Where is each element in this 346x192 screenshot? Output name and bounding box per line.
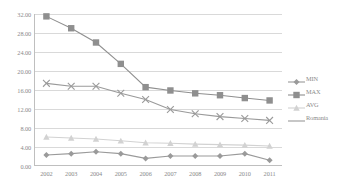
data-point-marker (43, 13, 49, 19)
data-point-marker (266, 97, 272, 103)
data-point-marker (217, 153, 223, 159)
x-tick-label: 2005 (115, 170, 127, 177)
y-tick-label: 4.00 (20, 144, 31, 151)
x-tick-label: 2003 (65, 170, 77, 177)
data-point-marker (118, 61, 124, 67)
legend-item-avg[interactable]: AVG (288, 98, 346, 110)
data-point-marker (118, 151, 124, 157)
y-axis-tick-labels: 0.004.008.0012.0016.0020.0024.0028.0032.… (0, 14, 31, 166)
chart-container: 0.004.008.0012.0016.0020.0024.0028.0032.… (0, 0, 346, 192)
legend-item-romania[interactable]: Romania (288, 111, 346, 123)
legend-item-max[interactable]: MAX (288, 85, 346, 97)
data-point-marker (68, 25, 74, 31)
series-min (43, 149, 272, 164)
x-tick-label: 2010 (239, 170, 251, 177)
data-point-marker (142, 84, 148, 90)
x-tick-label: 2004 (90, 170, 102, 177)
x-tick-label: 2002 (40, 170, 52, 177)
data-point-marker (43, 152, 49, 158)
data-point-marker (68, 151, 74, 157)
x-tick-label: 2011 (264, 170, 276, 177)
y-tick-label: 20.00 (17, 68, 31, 75)
y-tick-label: 16.00 (17, 87, 31, 94)
y-tick-label: 28.00 (17, 30, 31, 37)
series-layer (34, 14, 282, 166)
legend-marker-diamond-icon (288, 73, 305, 83)
data-point-marker (242, 95, 248, 101)
y-tick-label: 12.00 (17, 106, 31, 113)
series-max (43, 13, 273, 103)
plot-area (34, 14, 282, 166)
legend-label: MAX (306, 88, 320, 95)
data-point-marker (192, 90, 198, 96)
data-point-marker (117, 90, 124, 97)
series-romania (43, 80, 273, 124)
legend-label: MIN (306, 75, 318, 82)
legend-marker-triangle-icon (288, 99, 305, 109)
series-avg (43, 134, 273, 149)
legend-marker-square-icon (288, 86, 305, 96)
y-tick-label: 8.00 (20, 125, 31, 132)
x-axis-tick-labels: 2002200320042005200620072008200920102011 (34, 170, 282, 184)
data-point-marker (93, 39, 99, 45)
data-point-marker (242, 151, 248, 157)
x-tick-label: 2008 (189, 170, 201, 177)
data-point-marker (267, 157, 273, 163)
data-point-marker (167, 87, 173, 93)
legend-marker-x-icon (288, 112, 305, 122)
legend-item-min[interactable]: MIN (288, 72, 346, 84)
data-point-marker (192, 153, 198, 159)
series-line (46, 152, 269, 161)
legend-label: Romania (306, 114, 328, 121)
y-tick-label: 24.00 (17, 49, 31, 56)
y-tick-label: 0.00 (20, 163, 31, 170)
data-point-marker (142, 96, 149, 103)
data-point-marker (167, 153, 173, 159)
x-tick-label: 2009 (214, 170, 226, 177)
chart-legend: MINMAXAVGRomania (288, 72, 346, 124)
data-point-marker (93, 149, 99, 155)
data-point-marker (143, 155, 149, 161)
x-tick-label: 2007 (164, 170, 176, 177)
legend-label: AVG (306, 101, 319, 108)
series-line (46, 137, 269, 146)
data-point-marker (217, 92, 223, 98)
y-tick-label: 32.00 (17, 11, 31, 18)
series-line (46, 16, 269, 100)
x-tick-label: 2006 (139, 170, 151, 177)
